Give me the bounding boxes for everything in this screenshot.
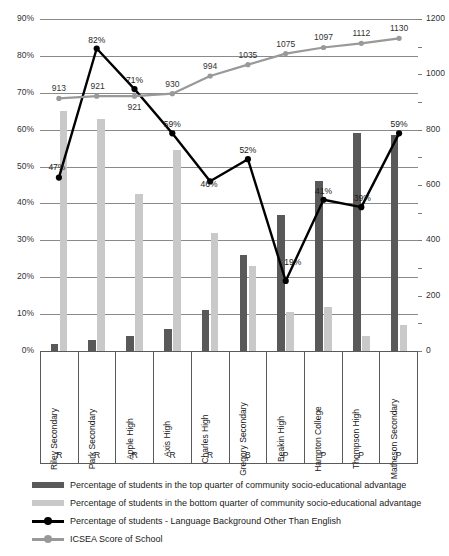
right-axis-tick-label: 400: [426, 234, 440, 244]
right-axis-tick-mark: [418, 351, 422, 352]
category-label: Hampton College: [313, 406, 323, 472]
data-point-marker: [358, 204, 364, 210]
legend-item: Percentage of students in the top quarte…: [30, 476, 440, 494]
category-label: Park Secondary: [87, 409, 97, 469]
icsea-data-label: 1112: [352, 28, 370, 38]
legend-label: Percentage of students - Language Backgr…: [70, 512, 341, 530]
category-label: Gregory Secondary: [238, 402, 248, 476]
data-point-marker: [94, 45, 100, 51]
left-axis-tick-label: 10%: [17, 308, 34, 318]
legend-marker-dot: [44, 535, 52, 543]
category-cell: Hampton CollegeP: [305, 352, 343, 463]
category-cell: Apple HighR: [116, 352, 154, 463]
icsea-data-label: 930: [165, 79, 179, 89]
category-cell: Thompson HighP: [343, 352, 381, 463]
right-axis-tick-mark: [418, 240, 422, 241]
data-point-marker: [56, 96, 61, 101]
legend-item: ICSEA Score of School: [30, 530, 440, 548]
legend-marker-dot: [44, 517, 52, 525]
plot-area: 0%10%20%30%40%50%60%70%80%90% 0200400600…: [40, 19, 418, 351]
category-rank-label: R: [192, 450, 229, 460]
legend-key-icon: [30, 530, 66, 548]
legend-key-icon: [30, 512, 66, 530]
right-axis-tick-label: 1200: [426, 13, 445, 23]
category-rank-label: P: [380, 450, 417, 460]
data-point-marker: [131, 86, 137, 92]
category-label: Riley Secondary: [49, 408, 59, 470]
lbote-data-label: 46%: [201, 179, 218, 189]
right-axis-tick-mark: [418, 157, 422, 158]
lbote-data-label: 19%: [284, 257, 301, 267]
lbote-data-label: 71%: [126, 75, 143, 85]
category-label: Thompson High: [351, 409, 361, 469]
legend-label: Percentage of students in the top quarte…: [70, 476, 406, 494]
right-axis-tick-mark: [418, 323, 422, 324]
right-axis-tick-label: 0: [426, 345, 431, 355]
left-axis-tick-label: 40%: [17, 197, 34, 207]
icsea-data-label: 1097: [314, 32, 333, 42]
data-point-marker: [56, 175, 62, 181]
left-axis-tick-label: 50%: [17, 161, 34, 171]
data-point-marker: [245, 156, 251, 162]
left-axis-tick-label: 90%: [17, 13, 34, 23]
category-cell: Charles HighR: [192, 352, 230, 463]
data-point-marker: [359, 41, 364, 46]
right-axis-tick-label: 1000: [426, 68, 445, 78]
legend-swatch: [32, 500, 64, 506]
right-axis-tick-mark: [418, 74, 422, 75]
category-cell: Gregory SecondaryB: [230, 352, 268, 463]
legend-key-icon: [30, 476, 66, 494]
category-label: Matheson Secondary: [389, 399, 399, 479]
left-axis-tick-label: 0%: [22, 345, 34, 355]
data-point-marker: [245, 62, 250, 67]
data-point-marker: [320, 197, 326, 203]
legend-item: Percentage of students in the bottom qua…: [30, 494, 440, 512]
category-cell: Beakin HighP: [267, 352, 305, 463]
left-axis-tick-label: 20%: [17, 271, 34, 281]
lbote-data-label: 39%: [354, 193, 371, 203]
lbote-data-label: 52%: [239, 145, 256, 155]
data-point-marker: [208, 73, 213, 78]
data-point-marker: [321, 45, 326, 50]
lbote-data-label: 59%: [391, 119, 408, 129]
icsea-data-label: 921: [127, 102, 141, 112]
legend-item: Percentage of students - Language Backgr…: [30, 512, 440, 530]
legend-swatch: [32, 482, 64, 488]
lbote-data-label: 82%: [88, 35, 105, 45]
lbote-data-label: 59%: [164, 119, 181, 129]
left-axis-tick-label: 70%: [17, 87, 34, 97]
category-axis-table: Riley SecondaryRPark SecondaryRApple Hig…: [40, 351, 418, 464]
category-rank-label: R: [79, 450, 116, 460]
category-cell: Riley SecondaryR: [41, 352, 79, 463]
left-axis-tick-label: 30%: [17, 234, 34, 244]
category-rank-label: R: [154, 450, 191, 460]
data-point-marker: [132, 94, 137, 99]
icsea-data-label: 1130: [390, 23, 408, 33]
lbote-line: [59, 49, 399, 281]
icsea-data-label: 921: [91, 81, 105, 91]
data-point-marker: [169, 130, 175, 136]
lbote-data-label: 47%: [48, 162, 65, 172]
icsea-line: [59, 38, 399, 98]
category-rank-label: R: [116, 450, 153, 460]
category-rank-label: P: [305, 450, 342, 460]
category-cell: Matheson SecondaryP: [380, 352, 417, 463]
right-axis-tick-mark: [418, 213, 422, 214]
icsea-data-label: 1075: [276, 39, 295, 49]
data-point-marker: [396, 130, 402, 136]
right-axis-tick-mark: [418, 185, 422, 186]
right-axis-tick-mark: [418, 130, 422, 131]
category-cell: Axis HighR: [154, 352, 192, 463]
data-point-marker: [170, 91, 175, 96]
data-point-marker: [283, 51, 288, 56]
legend-label: ICSEA Score of School: [70, 530, 163, 548]
right-axis-tick-label: 800: [426, 124, 440, 134]
left-axis-tick-label: 80%: [17, 50, 34, 60]
right-axis-tick-mark: [418, 102, 422, 103]
legend-label: Percentage of students in the bottom qua…: [70, 494, 421, 512]
category-rank-label: P: [267, 450, 304, 460]
lbote-data-label: 41%: [315, 186, 332, 196]
right-axis-tick-mark: [418, 19, 422, 20]
legend-key-icon: [30, 494, 66, 512]
chart-legend: Percentage of students in the top quarte…: [30, 476, 440, 548]
